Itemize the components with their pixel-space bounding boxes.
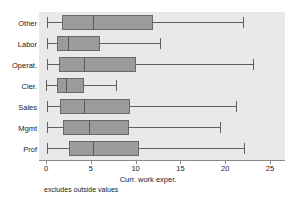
box-plot-row [0,139,246,159]
median-line [93,141,94,156]
median-line [84,99,85,114]
x-tick-label: 5 [89,164,93,173]
whisker-cap-low [47,143,48,154]
box-iqr [60,99,130,114]
whisker-cap-high [220,122,221,133]
whisker-left [47,22,62,23]
whisker-cap-low [47,38,48,49]
box-iqr [59,57,135,72]
chart-footnote: excludes outside values [44,186,118,193]
x-tick-label: 10 [131,164,139,173]
whisker-left [47,106,60,107]
whisker-cap-low [47,101,48,112]
box-iqr [63,120,129,135]
median-line [93,15,94,30]
box-iqr [69,141,139,156]
median-line [68,36,69,51]
whisker-right [130,106,236,107]
x-axis-title: Curr. work exper. [0,175,296,184]
box-plot-row [0,97,246,117]
box-iqr [57,36,100,51]
whisker-cap-high [116,80,117,91]
median-line [89,120,90,135]
box-iqr [57,78,84,93]
box-plot-figure: OtherLaborOperat.Cler.SalesMgmtProf 0510… [0,0,296,200]
median-line [84,57,85,72]
whisker-cap-high [253,59,254,70]
whisker-cap-high [244,143,245,154]
whisker-right [129,127,219,128]
median-line [66,78,67,93]
whisker-left [46,85,57,86]
box-plot-row [0,118,246,138]
x-axis-line [39,160,285,161]
box-plot-row [0,76,246,96]
whisker-left [47,43,57,44]
whisker-cap-low [47,17,48,28]
box-plot-row [0,34,246,54]
box-plot-row [0,55,246,75]
whisker-cap-high [243,17,244,28]
x-tick-label: 0 [44,164,48,173]
whisker-left [47,64,60,65]
whisker-left [47,148,69,149]
whisker-right [84,85,116,86]
whisker-cap-high [236,101,237,112]
x-tick-label: 25 [266,164,274,173]
whisker-cap-high [160,38,161,49]
whisker-left [47,127,63,128]
whisker-right [100,43,160,44]
whisker-right [139,148,244,149]
x-tick-label: 20 [221,164,229,173]
whisker-right [153,22,243,23]
whisker-right [136,64,253,65]
x-tick-label: 15 [176,164,184,173]
box-iqr [62,15,152,30]
whisker-cap-low [47,59,48,70]
box-plot-row [0,13,246,33]
whisker-cap-low [47,122,48,133]
whisker-cap-low [46,80,47,91]
